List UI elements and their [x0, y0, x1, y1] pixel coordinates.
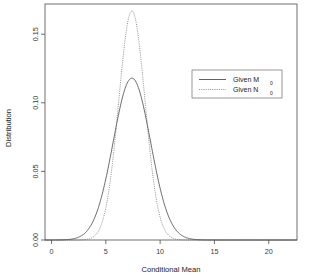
x-tick-label: 0 [50, 247, 54, 256]
legend[interactable]: Given M 0 Given N 0 [192, 70, 282, 98]
series-line-given-m0 [45, 78, 297, 240]
x-tick-label: 20 [265, 247, 273, 256]
y-axis-title: Distribution [4, 109, 13, 147]
series-line-given-n0 [45, 11, 297, 240]
legend-subscript-given-n0: 0 [270, 90, 273, 96]
x-axis-ticks: 05101520 [50, 240, 273, 256]
legend-label-given-m0: Given M [233, 76, 259, 83]
legend-subscript-given-m0: 0 [270, 80, 273, 86]
y-tick-label: 0.15 [31, 27, 40, 41]
y-tick-label: 0.00 [31, 233, 40, 247]
plot-panel-border [45, 4, 297, 240]
x-tick-label: 5 [104, 247, 108, 256]
chart-figure: 05101520 0.000.050.100.15 Conditional Me… [0, 0, 320, 279]
x-tick-label: 15 [210, 247, 218, 256]
legend-label-given-n0: Given N [233, 86, 258, 93]
y-tick-label: 0.05 [31, 164, 40, 178]
y-tick-label: 0.10 [31, 96, 40, 110]
legend-box [192, 70, 282, 98]
x-axis-title: Conditional Mean [141, 265, 200, 274]
distribution-plot: 05101520 0.000.050.100.15 Conditional Me… [0, 0, 320, 279]
y-axis-ticks: 0.000.050.100.15 [31, 27, 45, 247]
x-tick-label: 10 [156, 247, 164, 256]
